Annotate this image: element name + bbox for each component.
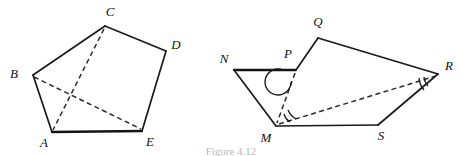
label-vertex-a: A (39, 135, 48, 150)
label-vertex-n: N (219, 51, 230, 66)
edge-e-a (52, 131, 142, 132)
label-vertex-q: Q (313, 14, 323, 29)
label-vertex-p: P (283, 46, 292, 61)
label-vertex-d: D (170, 37, 181, 52)
label-vertex-b: B (10, 66, 18, 81)
right-pentagon-group: N P Q R S M (219, 14, 453, 145)
figure-svg-canvas: A B C D E N (0, 0, 462, 156)
edge-r-s (378, 74, 438, 125)
edge-b-c (33, 26, 105, 75)
label-vertex-s: S (378, 128, 385, 143)
label-vertex-e: E (145, 134, 154, 149)
angle-arc-m-outer (288, 110, 296, 119)
label-vertex-m: M (260, 130, 273, 145)
label-vertex-c: C (106, 4, 115, 19)
edge-d-e (142, 51, 166, 131)
edge-s-m (276, 125, 378, 126)
angle-arc-p-reflex (265, 69, 291, 95)
label-vertex-r: R (444, 58, 453, 73)
edge-p-q (296, 38, 318, 70)
diagonal-b-e (34, 77, 141, 129)
diagonal-m-r (279, 76, 436, 124)
edge-a-b (33, 75, 52, 132)
left-pentagon-group: A B C D E (10, 4, 181, 150)
edge-m-n (234, 70, 276, 126)
figure-caption: Figure 4.12 (206, 145, 257, 156)
edge-q-r (318, 38, 438, 74)
geometry-figure-container: A B C D E N (0, 0, 462, 156)
edge-c-d (105, 26, 166, 51)
